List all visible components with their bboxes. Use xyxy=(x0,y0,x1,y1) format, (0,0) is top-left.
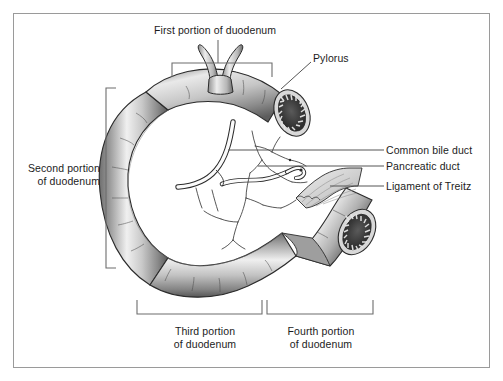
label-pancreatic-duct: Pancreatic duct xyxy=(386,160,460,173)
pylorus-neck xyxy=(208,75,233,94)
label-second-portion-line1: Second portion xyxy=(18,162,100,175)
label-fourth-portion-line2: of duodenum xyxy=(266,338,376,351)
leader-pylorus xyxy=(281,62,311,89)
label-second-portion: Second portion of duodenum xyxy=(18,162,100,187)
bracket-third-portion xyxy=(137,300,262,314)
label-second-portion-line2: of duodenum xyxy=(18,175,100,188)
label-pylorus: Pylorus xyxy=(313,52,349,65)
bracket-fourth-portion xyxy=(267,300,373,314)
label-common-bile-duct: Common bile duct xyxy=(386,144,472,157)
duodenum-anatomy-figure: First portion of duodenum Pylorus Second… xyxy=(0,0,503,381)
duodenum-second-portion-segment xyxy=(99,92,168,285)
label-fourth-portion: Fourth portion of duodenum xyxy=(266,325,376,350)
common-bile-duct-lumen xyxy=(178,122,233,187)
label-third-portion-line1: Third portion xyxy=(150,325,260,338)
label-third-portion: Third portion of duodenum xyxy=(150,325,260,350)
inner-curve-shading xyxy=(128,110,282,266)
pancreatic-vessels xyxy=(196,131,307,249)
duodenum-third-portion-segment xyxy=(150,233,296,297)
pancreatic-bed xyxy=(178,122,307,249)
label-ligament-of-treitz: Ligament of Treitz xyxy=(386,180,471,193)
label-fourth-portion-line1: Fourth portion xyxy=(266,325,376,338)
label-third-portion-line2: of duodenum xyxy=(150,338,260,351)
label-first-portion: First portion of duodenum xyxy=(154,24,276,37)
